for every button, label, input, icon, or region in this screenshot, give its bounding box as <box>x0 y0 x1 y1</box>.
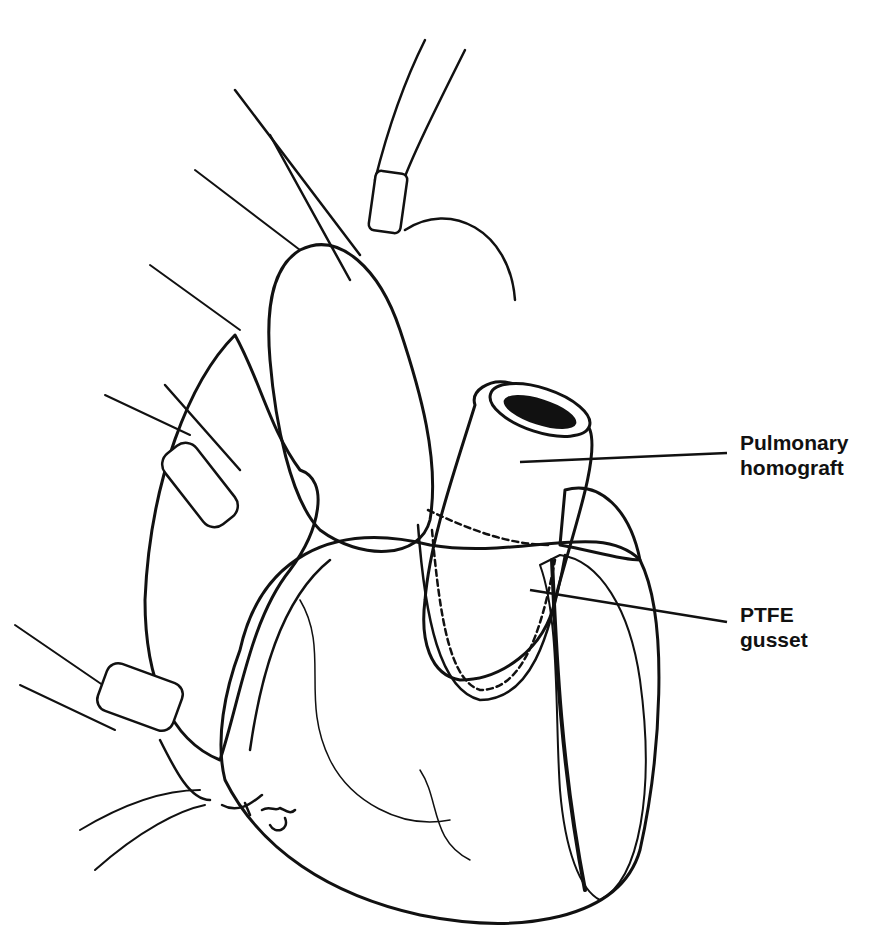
label-ptfe-gusset-line-2: gusset <box>740 627 808 652</box>
leader-line-pulmonary-homograft <box>520 453 727 462</box>
label-pulmonary-homograft: Pulmonary homograft <box>740 430 849 480</box>
heart-illustration <box>0 0 869 950</box>
pulmonary-homograft-conduit <box>418 373 596 700</box>
label-pulmonary-homograft-line-2: homograft <box>740 455 849 480</box>
cannulas <box>15 40 515 870</box>
label-pulmonary-homograft-line-1: Pulmonary <box>740 430 849 455</box>
aorta <box>269 245 433 552</box>
left-atrial-appendage <box>560 488 640 560</box>
label-ptfe-gusset: PTFE gusset <box>740 602 808 652</box>
label-ptfe-gusset-line-1: PTFE <box>740 602 808 627</box>
artist-signature <box>222 795 295 830</box>
leader-line-ptfe-gusset <box>530 590 727 622</box>
